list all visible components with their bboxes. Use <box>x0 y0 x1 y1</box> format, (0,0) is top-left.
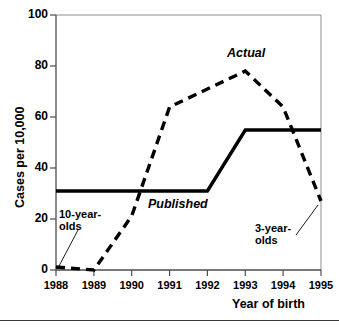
x-axis-title: Year of birth <box>232 298 305 311</box>
series-line-published <box>56 130 321 191</box>
y-tick-label-0: 0 <box>18 263 48 276</box>
y-axis-title: Cases per 10,000 <box>14 107 27 208</box>
annotation-10-year-olds-line2: olds <box>59 220 101 232</box>
x-tick-label-1991: 1991 <box>151 280 189 292</box>
chart-figure: 0 20 40 60 80 100 1988 1989 1990 1991 19… <box>0 0 339 327</box>
x-tick-label-1989: 1989 <box>75 280 113 292</box>
y-axis-ticks <box>50 15 56 270</box>
x-tick-label-1992: 1992 <box>188 280 226 292</box>
x-tick-label-1990: 1990 <box>113 280 151 292</box>
annotation-10-year-olds: 10-year- olds <box>59 208 101 233</box>
x-tick-label-1993: 1993 <box>226 280 264 292</box>
bottom-divider <box>0 320 339 321</box>
annotation-3-year-olds-line1: 3-year- <box>255 222 291 234</box>
annotation-10-year-olds-line1: 10-year- <box>59 208 101 220</box>
chart-plot-area <box>0 0 339 327</box>
series-label-actual: Actual <box>227 47 265 60</box>
annotation-3-year-olds: 3-year- olds <box>255 222 291 247</box>
x-tick-label-1995: 1995 <box>302 280 339 292</box>
x-axis-ticks <box>56 270 321 276</box>
y-tick-label-100: 100 <box>18 8 48 21</box>
y-tick-label-80: 80 <box>18 59 48 72</box>
series-label-published: Published <box>148 198 208 211</box>
x-tick-label-1988: 1988 <box>37 280 75 292</box>
y-tick-label-20: 20 <box>18 212 48 225</box>
annotation-3-year-olds-line2: olds <box>255 234 291 246</box>
x-tick-label-1994: 1994 <box>264 280 302 292</box>
leader-line-3-year-olds <box>296 205 318 235</box>
leader-line-10-year-olds <box>58 230 78 268</box>
